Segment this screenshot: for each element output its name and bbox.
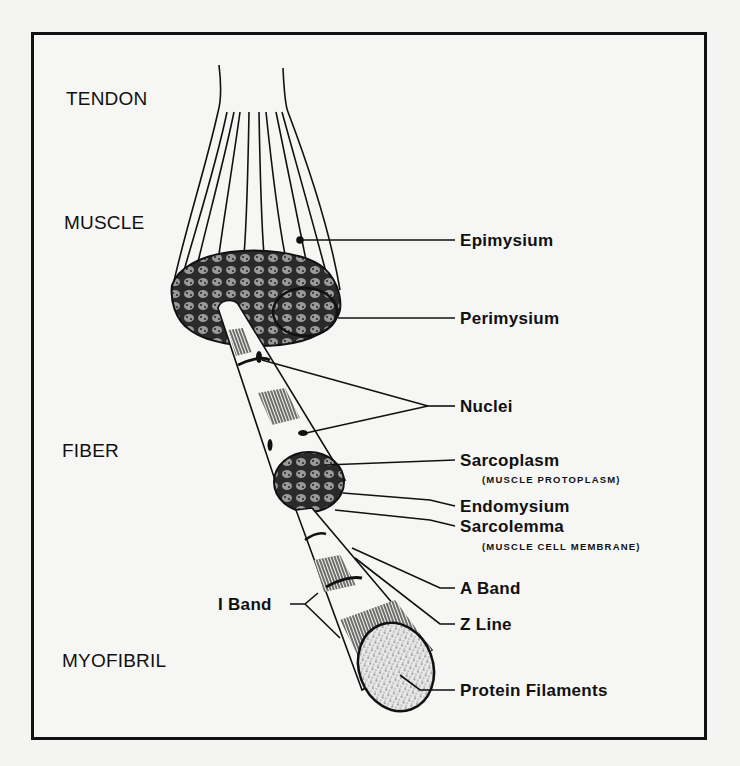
callout-sarcoplasm: Sarcoplasm (460, 451, 559, 471)
muscle-cross-section (172, 251, 341, 347)
callout-sarcolemma: Sarcolemma (460, 517, 564, 537)
callout-perimysium: Perimysium (460, 309, 559, 329)
callout-protein-filaments: Protein Filaments (460, 681, 608, 701)
callout-nuclei: Nuclei (460, 397, 513, 417)
callout-sarcoplasm-note: (MUSCLE PROTOPLASM) (482, 474, 621, 485)
level-label-myofibril: MYOFIBRIL (62, 650, 166, 672)
level-label-tendon: TENDON (66, 88, 147, 110)
callout-epimysium: Epimysium (460, 231, 553, 251)
callout-sarcolemma-note: (MUSCLE CELL MEMBRANE) (482, 541, 641, 552)
callout-a-band: A Band (460, 579, 521, 599)
callout-z-line: Z Line (460, 615, 512, 635)
callout-i-band: I Band (218, 595, 272, 615)
level-label-fiber: FIBER (62, 440, 119, 462)
level-label-muscle: MUSCLE (64, 212, 144, 234)
callout-endomysium: Endomysium (460, 497, 570, 517)
